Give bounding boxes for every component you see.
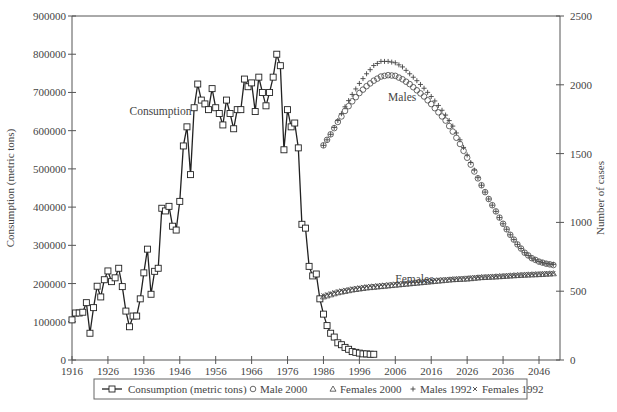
circle-marker	[418, 91, 424, 97]
plus-marker	[468, 160, 473, 165]
series-layer	[69, 51, 556, 357]
y-tick-label: 100000	[33, 316, 67, 328]
square-marker	[267, 89, 273, 95]
y-tick-label: 700000	[33, 86, 67, 98]
series-males-1992	[321, 59, 556, 267]
x-tick-label: 1956	[205, 365, 228, 377]
square-marker	[274, 51, 280, 57]
square-marker	[263, 103, 269, 109]
x-tick-label: 1986	[312, 365, 335, 377]
axes: 0100000200000300000400000500000600000700…	[4, 10, 606, 377]
circle-marker	[357, 90, 363, 96]
square-marker	[220, 122, 226, 128]
square-marker	[109, 386, 115, 392]
square-marker	[313, 271, 319, 277]
square-marker	[180, 143, 186, 149]
square-marker	[270, 74, 276, 80]
plus-marker	[432, 98, 437, 103]
y-tick-label: 200000	[33, 278, 67, 290]
consumption-line	[72, 54, 374, 354]
square-marker	[277, 63, 283, 69]
x-tick-label: 1916	[61, 365, 84, 377]
y-tick-label: 400000	[33, 201, 67, 213]
x-tick-label: 1946	[169, 365, 192, 377]
square-marker	[216, 110, 222, 116]
square-marker	[295, 145, 301, 151]
y-axis-title: Consumption (metric tons)	[4, 128, 17, 247]
square-marker	[91, 305, 97, 311]
square-marker	[148, 291, 154, 297]
square-marker	[166, 203, 172, 209]
circle-marker	[393, 73, 399, 79]
x-tick-label: 2036	[492, 365, 515, 377]
plus-marker	[414, 78, 419, 83]
plus-marker	[440, 108, 445, 113]
square-marker	[320, 311, 326, 317]
x-tick-label: 1936	[133, 365, 156, 377]
y-tick-label: 900000	[33, 10, 67, 22]
square-marker	[281, 147, 287, 153]
square-marker	[256, 74, 262, 80]
square-marker	[119, 284, 125, 290]
square-marker	[371, 351, 377, 357]
square-marker	[87, 330, 93, 336]
x-tick-label: 1926	[97, 365, 120, 377]
square-marker	[195, 81, 201, 87]
x-tick-label: 1996	[348, 365, 371, 377]
square-marker	[306, 263, 312, 269]
square-marker	[105, 268, 111, 274]
square-marker	[191, 105, 197, 111]
plus-marker	[368, 67, 373, 72]
square-marker	[144, 246, 150, 252]
square-marker	[303, 225, 309, 231]
plus-marker	[443, 113, 448, 118]
plus-marker	[357, 81, 362, 86]
x-tick-label: 2016	[420, 365, 443, 377]
square-marker	[231, 126, 237, 132]
x-tick-label: 2006	[384, 365, 407, 377]
plus-marker	[422, 86, 427, 91]
square-marker	[134, 313, 140, 319]
legend-label: Females 2000	[340, 383, 402, 395]
plus-marker	[407, 71, 412, 76]
x-tick-label: 2026	[456, 365, 479, 377]
square-marker	[123, 308, 129, 314]
square-marker	[83, 300, 89, 306]
square-marker	[112, 275, 118, 281]
annotation-consumption: Consumption	[129, 105, 191, 118]
annotation-males: Males	[388, 91, 417, 103]
annotation-females: Females	[395, 273, 434, 285]
circle-marker	[360, 87, 366, 93]
y2-tick-label: 1500	[570, 148, 593, 160]
circle-marker	[410, 84, 416, 90]
plus-marker	[389, 60, 394, 65]
plus-marker	[454, 130, 459, 135]
square-marker	[173, 227, 179, 233]
square-marker	[116, 265, 122, 271]
square-marker	[126, 324, 132, 330]
square-marker	[137, 296, 143, 302]
square-marker	[324, 323, 330, 329]
legend-label: Consumption (metric tons)	[128, 383, 247, 396]
circle-marker	[346, 103, 352, 109]
y-tick-label: 600000	[33, 125, 67, 137]
x-tick-label: 1976	[277, 365, 300, 377]
square-marker	[98, 294, 104, 300]
legend-label: Male 2000	[260, 383, 308, 395]
square-marker	[241, 76, 247, 82]
square-marker	[184, 124, 190, 130]
legend-item: Females 2000	[330, 383, 402, 395]
plus-marker	[411, 75, 416, 80]
y-tick-label: 500000	[33, 163, 67, 175]
legend-item: Females 1992	[473, 383, 543, 395]
y-tick-label: 300000	[33, 239, 67, 251]
y-tick-label: 800000	[33, 48, 67, 60]
square-marker	[188, 172, 194, 178]
square-marker	[252, 109, 258, 115]
square-marker	[202, 101, 208, 107]
square-marker	[331, 334, 337, 340]
x-tick-label: 2046	[528, 365, 551, 377]
plus-marker	[404, 68, 409, 73]
square-marker	[69, 317, 75, 323]
square-marker	[94, 283, 100, 289]
